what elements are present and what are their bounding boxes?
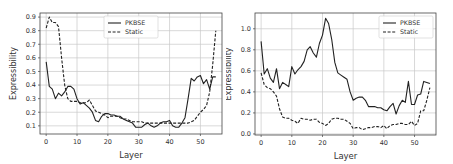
x-tick-label: 40 xyxy=(165,138,173,146)
y-tick-label: 0.0 xyxy=(241,130,251,138)
y-tick-label: 0.2 xyxy=(26,109,36,117)
y-tick-label: 0.5 xyxy=(26,68,36,76)
y-tick-label: 0.9 xyxy=(26,13,36,21)
x-tick-label: 50 xyxy=(410,139,418,147)
x-tick-label: 50 xyxy=(196,138,204,146)
chart-left: 010203040500.10.20.30.40.50.60.70.80.9La… xyxy=(0,0,226,164)
chart-right: 010203040500.00.20.40.60.81.0LayerExpres… xyxy=(226,0,453,164)
y-tick-label: 0.7 xyxy=(26,41,36,49)
x-tick-label: 20 xyxy=(104,138,112,146)
legend-label-static: Static xyxy=(400,28,419,35)
y-tick-label: 0.2 xyxy=(241,109,251,117)
y-axis-label: Expressibility xyxy=(9,47,18,100)
x-tick-label: 20 xyxy=(318,139,326,147)
x-tick-label: 30 xyxy=(349,139,357,147)
y-tick-label: 0.6 xyxy=(241,67,251,75)
y-tick-label: 0.4 xyxy=(26,81,36,89)
legend: PKBSEStatic xyxy=(104,16,158,38)
y-tick-label: 1.0 xyxy=(241,25,251,33)
y-axis-label: Expressibility xyxy=(226,47,233,100)
right-line-chart: 010203040500.00.20.40.60.81.0LayerExpres… xyxy=(226,0,453,164)
legend-label-pkbse: PKBSE xyxy=(400,19,420,26)
x-tick-label: 0 xyxy=(44,138,48,146)
x-tick-label: 0 xyxy=(259,139,263,147)
y-tick-label: 0.8 xyxy=(241,46,251,54)
x-tick-label: 10 xyxy=(288,139,296,147)
legend-label-pkbse: PKBSE xyxy=(125,19,145,26)
y-tick-label: 0.1 xyxy=(26,122,36,130)
y-tick-label: 0.3 xyxy=(26,95,36,103)
x-tick-label: 10 xyxy=(73,138,81,146)
y-tick-label: 0.6 xyxy=(26,54,36,62)
x-tick-label: 30 xyxy=(135,138,143,146)
x-tick-label: 40 xyxy=(380,139,388,147)
legend-label-static: Static xyxy=(125,28,144,35)
x-axis-label: Layer xyxy=(334,151,358,161)
legend: PKBSEStatic xyxy=(379,16,433,38)
y-tick-label: 0.4 xyxy=(241,88,251,96)
y-tick-label: 0.8 xyxy=(26,27,36,35)
x-axis-label: Layer xyxy=(119,150,143,160)
left-line-chart: 010203040500.10.20.30.40.50.60.70.80.9La… xyxy=(0,0,226,164)
